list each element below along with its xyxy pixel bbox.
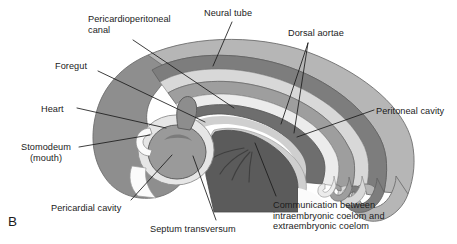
- panel-letter-b: B: [8, 214, 17, 229]
- label-pericardioperitoneal-canal: Pericardioperitoneal canal: [88, 14, 171, 35]
- embryo-coelom-figure: Pericardioperitoneal canal Neural tube D…: [0, 0, 457, 244]
- label-stomodeum: Stomodeum (mouth): [14, 142, 78, 163]
- label-heart: Heart: [41, 104, 64, 115]
- label-peritoneal-cavity: Peritoneal cavity: [376, 106, 444, 117]
- label-septum-transversum: Septum transversum: [150, 224, 236, 235]
- label-neural-tube: Neural tube: [204, 8, 252, 19]
- label-dorsal-aortae: Dorsal aortae: [288, 28, 344, 39]
- label-communication-coelom: Communication between intraembryonic coe…: [273, 200, 385, 232]
- heart: [148, 125, 206, 179]
- label-pericardial-cavity: Pericardial cavity: [51, 203, 121, 214]
- label-foregut: Foregut: [55, 61, 87, 72]
